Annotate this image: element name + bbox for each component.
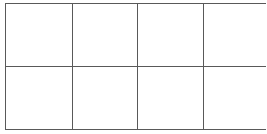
grid-cell-r2c3[interactable] bbox=[138, 67, 204, 130]
grid-cell-r1c3[interactable] bbox=[138, 4, 204, 67]
grid-cell-r1c2[interactable] bbox=[73, 4, 138, 67]
table-row bbox=[6, 4, 267, 67]
grid-cell-r2c1[interactable] bbox=[6, 67, 73, 130]
table-row bbox=[6, 67, 267, 130]
grid-figure bbox=[0, 0, 266, 134]
grid-cell-r1c1[interactable] bbox=[6, 4, 73, 67]
grid-table-body bbox=[6, 4, 267, 130]
grid-cell-r1c4[interactable] bbox=[204, 4, 267, 67]
grid-cell-r2c4[interactable] bbox=[204, 67, 267, 130]
grid-table bbox=[5, 3, 266, 130]
grid-cell-r2c2[interactable] bbox=[73, 67, 138, 130]
